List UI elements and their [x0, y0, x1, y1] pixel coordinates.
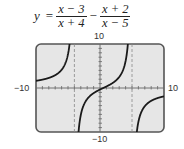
graph-screen	[0, 0, 184, 149]
